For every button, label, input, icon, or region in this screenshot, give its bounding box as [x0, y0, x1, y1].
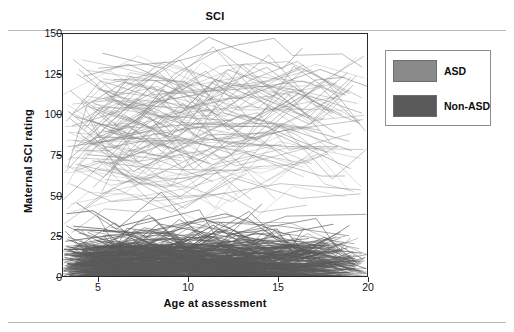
- x-tick-mark: [188, 277, 189, 282]
- figure-bottom-rule: [8, 322, 506, 323]
- legend-swatch-non-asd: [393, 95, 437, 117]
- x-tick-mark: [278, 277, 279, 282]
- plot-area: [62, 33, 368, 277]
- y-axis-title: Maternal SCI rating: [22, 71, 34, 251]
- x-tick-mark: [368, 277, 369, 282]
- y-tick-mark: [56, 155, 62, 156]
- x-tick-mark: [98, 277, 99, 282]
- spaghetti-lines: [63, 34, 367, 276]
- x-axis-title: Age at assessment: [62, 297, 368, 309]
- x-tick-label: 15: [258, 281, 298, 293]
- y-tick-mark: [56, 33, 62, 34]
- y-tick-mark: [56, 236, 62, 237]
- x-tick-label: 10: [168, 281, 208, 293]
- legend-item-asd: ASD: [393, 59, 485, 83]
- legend-label-asd: ASD: [444, 65, 466, 77]
- chart-title: SCI: [62, 10, 368, 22]
- legend-swatch-asd: [393, 60, 437, 82]
- legend-item-non-asd: Non-ASD: [393, 94, 485, 118]
- x-tick-label: 20: [348, 281, 388, 293]
- y-tick-mark: [56, 196, 62, 197]
- y-tick-mark: [56, 74, 62, 75]
- figure-panel: SCI 0255075100125150 Maternal SCI rating…: [0, 0, 514, 332]
- legend: ASD Non-ASD: [385, 50, 491, 126]
- y-tick-mark: [56, 277, 62, 278]
- y-tick-mark: [56, 114, 62, 115]
- figure-top-rule: [8, 30, 506, 31]
- legend-label-non-asd: Non-ASD: [444, 100, 490, 112]
- x-tick-label: 5: [78, 281, 118, 293]
